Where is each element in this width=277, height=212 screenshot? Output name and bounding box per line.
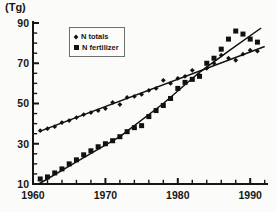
legend-item-n-fertilizer: N fertilizer (74, 42, 119, 53)
square-marker-icon (74, 45, 79, 50)
svg-text:1990: 1990 (239, 189, 263, 201)
legend: N totals N fertilizer (69, 27, 125, 57)
svg-text:50: 50 (17, 97, 29, 109)
legend-label-n-totals: N totals (81, 31, 109, 42)
svg-text:70: 70 (17, 57, 29, 69)
legend-item-n-totals: N totals (74, 31, 119, 42)
svg-text:90: 90 (17, 17, 29, 29)
legend-label-n-fertilizer: N fertilizer (82, 42, 119, 53)
diamond-marker-icon (74, 34, 79, 39)
svg-text:1960: 1960 (21, 189, 45, 201)
svg-text:30: 30 (17, 138, 29, 150)
chart-canvas: 19601970198019901030507090 (0, 0, 277, 212)
svg-text:10: 10 (17, 178, 29, 190)
chart-figure: (Tg) 19601970198019901030507090 N totals… (0, 0, 277, 212)
svg-text:1980: 1980 (166, 189, 190, 201)
svg-text:1970: 1970 (94, 189, 118, 201)
